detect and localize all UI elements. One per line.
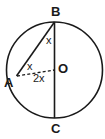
angle-label-at-b: x [46,35,52,46]
vertex-label-c: C [51,122,60,135]
chord-segment-ab [17,22,55,76]
vertex-label-b: B [51,5,60,18]
center-label-o: O [58,62,68,75]
geometry-figure: B C A O x x 2x [0,0,105,139]
vertex-label-a: A [4,76,13,89]
circle-diagram-svg [0,0,105,139]
angle-label-at-o: 2x [33,73,45,84]
angle-label-at-a: x [27,61,33,72]
